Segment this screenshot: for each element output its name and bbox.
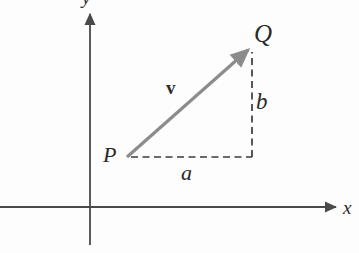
point-label-p: P [103, 144, 116, 166]
y-axis-label: y [82, 0, 90, 7]
vector-diagram: Q P v a b x y [0, 0, 359, 253]
point-label-q: Q [254, 21, 272, 46]
x-axis-label: x [343, 198, 351, 217]
component-label-a: a [181, 162, 192, 184]
component-label-b: b [256, 90, 268, 113]
diagram-canvas [0, 0, 359, 253]
vector-arrow-line [127, 50, 248, 157]
vector-label-v: v [166, 78, 176, 97]
